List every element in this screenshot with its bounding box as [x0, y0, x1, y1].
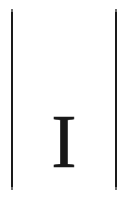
text-column: I [0, 104, 128, 180]
scanned-page: I [0, 0, 128, 199]
capital-letter-glyph: I [51, 103, 76, 179]
